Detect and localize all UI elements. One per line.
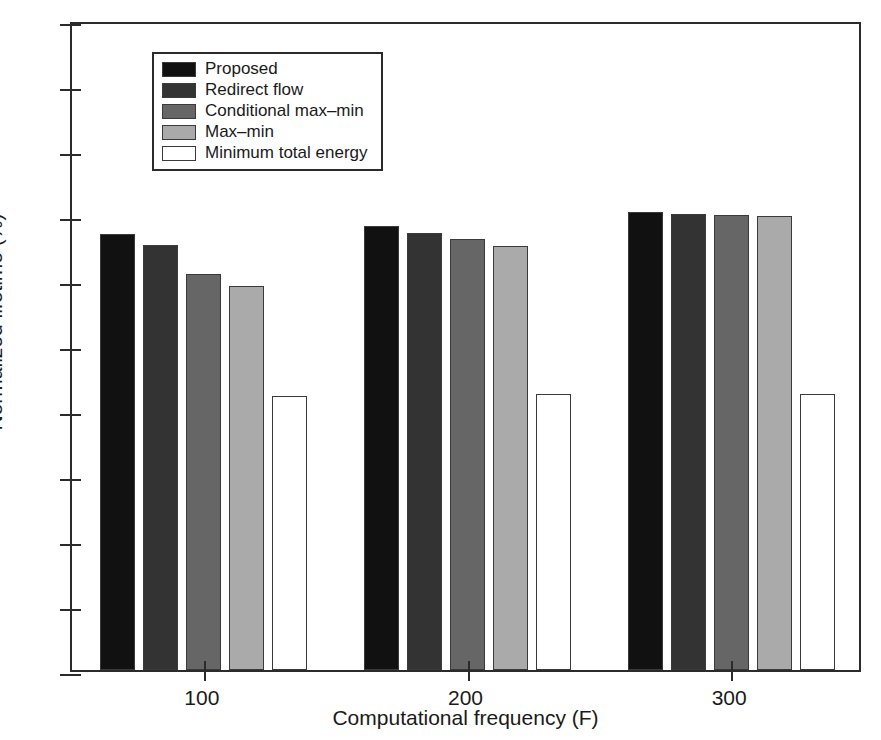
bar [536, 394, 571, 670]
bar [714, 215, 749, 670]
bar-chart-figure: ProposedRedirect flowConditional max–min… [0, 0, 881, 740]
x-axis-tick-label: 300 [669, 686, 789, 710]
y-axis-tick [60, 154, 72, 156]
y-axis-title: Normalized lifetime (%) [0, 0, 7, 647]
legend-label: Redirect flow [205, 81, 303, 99]
x-axis-tick-inner [731, 661, 733, 670]
x-axis-tick-inner [204, 661, 206, 670]
y-axis-tick-inner [72, 24, 81, 26]
bar [493, 246, 528, 670]
y-axis-tick-inner [72, 349, 81, 351]
y-axis-tick [60, 609, 72, 611]
legend-item: Max–min [162, 122, 373, 142]
y-axis-tick-inner [72, 89, 81, 91]
legend-swatch [162, 83, 196, 98]
x-axis-tick-label: 200 [406, 686, 526, 710]
bar [186, 274, 221, 670]
legend-label: Proposed [205, 60, 278, 78]
y-axis-tick-inner [72, 544, 81, 546]
legend-label: Minimum total energy [205, 144, 368, 162]
y-axis-tick [60, 674, 72, 676]
bar [272, 396, 307, 670]
x-axis-tick [731, 670, 733, 681]
y-axis-tick [60, 349, 72, 351]
y-axis-tick-inner [72, 219, 81, 221]
bar [364, 226, 399, 670]
chart-legend: ProposedRedirect flowConditional max–min… [152, 52, 383, 171]
bar [671, 214, 706, 670]
x-axis-tick [468, 670, 470, 681]
legend-item: Minimum total energy [162, 143, 373, 163]
y-axis-tick [60, 24, 72, 26]
legend-swatch [162, 146, 196, 161]
y-axis-tick-inner [72, 414, 81, 416]
y-axis-tick [60, 544, 72, 546]
bar [450, 239, 485, 670]
bar [628, 212, 663, 670]
x-axis-tick-label: 100 [142, 686, 262, 710]
y-axis-tick-inner [72, 154, 81, 156]
bar [800, 394, 835, 670]
bar [143, 245, 178, 670]
x-axis-tick-inner [468, 661, 470, 670]
bar [407, 233, 442, 670]
y-axis-tick [60, 414, 72, 416]
legend-label: Conditional max–min [205, 102, 364, 120]
bar [229, 286, 264, 670]
legend-swatch [162, 62, 196, 77]
legend-swatch [162, 104, 196, 119]
legend-item: Redirect flow [162, 80, 373, 100]
bar [100, 234, 135, 670]
y-axis-tick-inner [72, 674, 81, 676]
x-axis-tick [204, 670, 206, 681]
y-axis-tick-inner [72, 284, 81, 286]
y-axis-tick [60, 284, 72, 286]
y-axis-tick [60, 89, 72, 91]
y-axis-tick-inner [72, 609, 81, 611]
legend-item: Conditional max–min [162, 101, 373, 121]
y-axis-tick [60, 479, 72, 481]
plot-frame: ProposedRedirect flowConditional max–min… [70, 22, 861, 672]
y-axis-tick-inner [72, 479, 81, 481]
legend-label: Max–min [205, 123, 274, 141]
legend-swatch [162, 125, 196, 140]
legend-item: Proposed [162, 59, 373, 79]
y-axis-tick [60, 219, 72, 221]
bar [757, 216, 792, 670]
